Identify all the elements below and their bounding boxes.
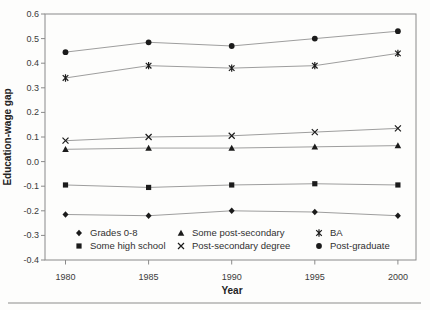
y-tick-label: 0.5 [26,34,39,44]
series-grades-0-8 [63,208,401,219]
x-axis-title: Year [221,285,242,296]
circle-marker-shape [146,39,152,45]
square-marker-shape [76,243,81,248]
legend-item-post-graduate: Post-graduate [316,240,390,251]
y-tick-label: -0.2 [23,206,39,216]
legend-marker-some-high-school [76,243,81,248]
series-some-post-secondary [62,142,401,152]
square-marker-shape [146,185,151,190]
x-tick-label: 1980 [55,272,75,282]
legend-item-some-post-secondary: Some post-secondary [178,227,285,238]
y-tick-label: -0.1 [23,181,39,191]
legend-item-ba: BA [316,227,343,238]
legend-item-post-secondary-degree: Post-secondary degree [178,240,290,251]
data-series [62,28,401,219]
grades-0-8-marker [312,209,318,215]
y-tick-label: -0.4 [23,255,39,265]
y-tick-label: 0.6 [26,9,39,19]
post-graduate-marker [63,49,69,55]
line-chart: 0.60.50.40.30.20.10.0-0.1-0.2-0.3-0.4198… [0,0,430,310]
legend-label-some-high-school: Some high school [90,240,166,251]
diamond-marker-shape [76,230,82,236]
some-high-school-marker [63,182,68,187]
legend-label-some-post-secondary: Some post-secondary [192,227,285,238]
square-marker-shape [312,181,317,186]
x-tick-label: 1985 [139,272,159,282]
grades-0-8-marker [395,213,401,219]
education-wage-gap-figure: 0.60.50.40.30.20.10.0-0.1-0.2-0.3-0.4198… [0,0,430,310]
x-tick-label: 2000 [388,272,408,282]
some-high-school-marker [395,182,400,187]
diamond-marker-shape [312,209,318,215]
some-high-school-marker [146,185,151,190]
series-post-secondary-degree [63,125,401,143]
triangle-marker-shape [178,230,185,236]
post-graduate-marker [229,43,235,49]
post-secondary-degree-line [66,128,398,140]
some-high-school-marker [229,182,234,187]
legend: Grades 0-8Some high schoolSome post-seco… [76,227,390,251]
y-axis-title: Education-wage gap [2,88,13,185]
x-tick-label: 1995 [305,272,325,282]
legend-label-grades-0-8: Grades 0-8 [90,227,138,238]
post-graduate-marker [146,39,152,45]
y-tick-label: 0.4 [26,58,39,68]
circle-marker-shape [63,49,69,55]
legend-label-post-graduate: Post-graduate [330,240,390,251]
circle-marker-shape [229,43,235,49]
legend-item-grades-0-8: Grades 0-8 [76,227,138,238]
legend-marker-some-post-secondary [178,230,185,236]
grades-0-8-marker [146,213,152,219]
square-marker-shape [63,182,68,187]
some-high-school-marker [312,181,317,186]
post-graduate-marker [395,28,401,34]
series-post-graduate [63,28,401,55]
square-marker-shape [395,182,400,187]
y-tick-label: 0.3 [26,83,39,93]
diamond-marker-shape [395,213,401,219]
x-tick-label: 1990 [222,272,242,282]
circle-marker-shape [316,243,322,249]
grades-0-8-marker [63,211,69,217]
asterisk-marker-shape [316,229,322,236]
legend-marker-ba [316,229,322,236]
circle-marker-shape [312,36,318,42]
diamond-marker-shape [146,213,152,219]
post-graduate-line [66,31,398,52]
diamond-marker-shape [63,211,69,217]
diamond-marker-shape [229,208,235,214]
series-some-high-school [63,181,401,190]
post-graduate-marker [312,36,318,42]
legend-item-some-high-school: Some high school [76,240,165,251]
y-tick-label: -0.3 [23,230,39,240]
legend-label-ba: BA [330,227,343,238]
square-marker-shape [229,182,234,187]
y-tick-label: 0.2 [26,107,39,117]
legend-marker-post-secondary-degree [178,243,184,249]
grades-0-8-marker [229,208,235,214]
x-marker-shape [178,243,184,249]
circle-marker-shape [395,28,401,34]
legend-marker-grades-0-8 [76,230,82,236]
legend-marker-post-graduate [316,243,322,249]
y-tick-label: 0.0 [26,157,39,167]
legend-label-post-secondary-degree: Post-secondary degree [192,240,290,251]
series-ba [63,50,401,82]
y-tick-label: 0.1 [26,132,39,142]
